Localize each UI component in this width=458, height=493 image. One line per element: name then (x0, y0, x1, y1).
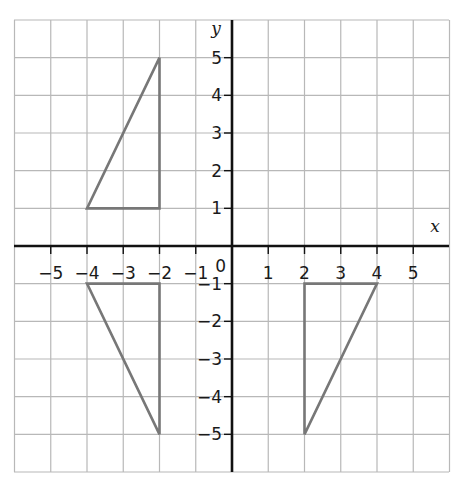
x-tick-label: 2 (299, 263, 310, 283)
x-tick-label: 4 (372, 263, 383, 283)
y-tick-label: −4 (197, 387, 222, 407)
x-axis-label: x (430, 216, 440, 236)
x-tick-label: 3 (335, 263, 346, 283)
y-tick-label: −1 (197, 274, 222, 294)
y-tick-label: −3 (197, 349, 222, 369)
y-tick-label: 2 (211, 161, 222, 181)
x-tick-label: −5 (38, 263, 63, 283)
x-tick-label: −4 (74, 263, 99, 283)
y-axis-label: y (210, 18, 221, 38)
axes (14, 20, 449, 472)
x-tick-label: −3 (111, 263, 136, 283)
y-tick-label: 3 (211, 123, 222, 143)
y-tick-label: 5 (211, 48, 222, 68)
y-tick-label: −2 (197, 311, 222, 331)
x-tick-label: −2 (147, 263, 172, 283)
x-tick-label: 5 (408, 263, 419, 283)
y-tick-label: 4 (211, 85, 222, 105)
axis-labels: −5−4−3−2−11234554321−1−2−3−4−50xy (38, 18, 440, 444)
y-tick-label: −5 (197, 424, 222, 444)
origin-label: 0 (215, 256, 226, 276)
coordinate-grid: −5−4−3−2−11234554321−1−2−3−4−50xy (0, 0, 458, 493)
x-tick-label: 1 (263, 263, 274, 283)
y-tick-label: 1 (211, 198, 222, 218)
